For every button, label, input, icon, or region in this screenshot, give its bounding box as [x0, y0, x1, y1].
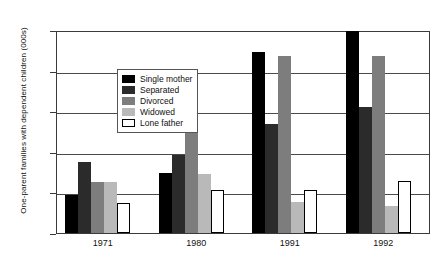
bar-group-1991	[244, 32, 338, 233]
bar-separated-1971	[78, 162, 91, 233]
plot-area: Single motherSeparatedDivorcedWidowedLon…	[56, 31, 430, 234]
legend-item-separated: Separated	[122, 85, 192, 95]
x-tick-label-1991: 1991	[280, 238, 300, 248]
legend-label-divorced: Divorced	[140, 97, 174, 106]
bar-single-mother-1991	[252, 52, 265, 233]
legend-label-lone-father: Lone father	[140, 119, 183, 128]
legend-swatch-widowed	[122, 108, 135, 116]
bar-separated-1991	[265, 124, 278, 233]
bar-widowed-1991	[291, 202, 304, 233]
bar-divorced-1991	[278, 56, 291, 233]
legend-item-divorced: Divorced	[122, 96, 192, 106]
y-tick-mark	[50, 234, 56, 235]
legend-swatch-lone-father	[122, 119, 135, 127]
bar-separated-1992	[359, 107, 372, 233]
bar-single-mother-1971	[65, 195, 78, 233]
bar-group-1992	[338, 32, 432, 233]
legend-item-widowed: Widowed	[122, 107, 192, 117]
bar-widowed-1980	[198, 174, 211, 233]
bar-widowed-1971	[104, 182, 117, 233]
legend-swatch-single-mother	[122, 75, 135, 83]
y-axis-title: One-parent families with dependent child…	[19, 13, 28, 228]
legend: Single motherSeparatedDivorcedWidowedLon…	[117, 69, 198, 133]
bar-single-mother-1992	[346, 31, 359, 233]
bar-lone-father-1992	[398, 181, 411, 233]
bar-separated-1980	[172, 155, 185, 233]
bar-widowed-1992	[385, 206, 398, 233]
x-tick-label-1980: 1980	[186, 238, 206, 248]
bar-chart: One-parent families with dependent child…	[0, 0, 443, 259]
legend-label-single-mother: Single mother	[140, 75, 192, 84]
bar-divorced-1971	[91, 182, 104, 233]
bar-lone-father-1991	[304, 190, 317, 233]
x-tick-label-1992: 1992	[373, 238, 393, 248]
legend-item-lone-father: Lone father	[122, 118, 192, 128]
bar-divorced-1992	[372, 56, 385, 233]
legend-item-single-mother: Single mother	[122, 74, 192, 84]
bar-single-mother-1980	[159, 173, 172, 233]
bar-lone-father-1980	[211, 190, 224, 233]
legend-label-separated: Separated	[140, 86, 179, 95]
legend-label-widowed: Widowed	[140, 108, 175, 117]
legend-swatch-separated	[122, 86, 135, 94]
bar-lone-father-1971	[117, 203, 130, 233]
x-tick-label-1971: 1971	[93, 238, 113, 248]
legend-swatch-divorced	[122, 97, 135, 105]
